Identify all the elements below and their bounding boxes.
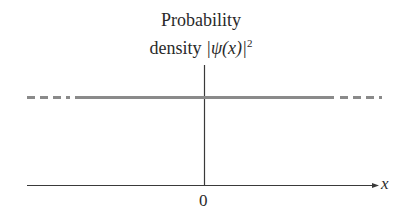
probability-density-diagram: Probability density |ψ(x)|2 x 0 [0,0,402,221]
origin-label: 0 [199,191,208,211]
plot-area [0,0,402,221]
x-axis-arrow-icon [372,183,379,188]
x-axis-label: x [381,174,389,194]
